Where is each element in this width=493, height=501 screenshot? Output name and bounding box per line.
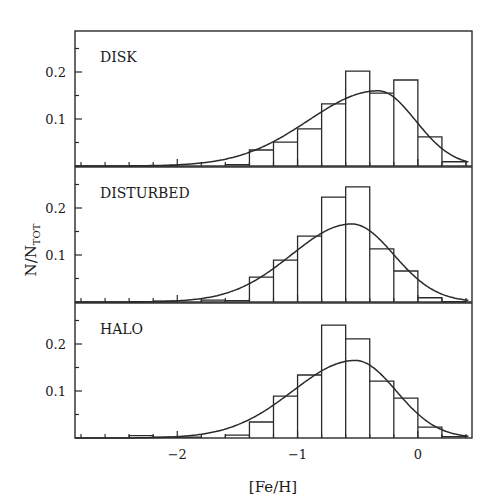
y-axis-label-main: N/N — [22, 245, 40, 276]
y-tick-label: 0.2 — [45, 65, 66, 80]
panel-label: DISTURBED — [100, 185, 190, 201]
fit-curve — [75, 224, 468, 302]
panel-label: DISK — [100, 49, 137, 65]
fit-curve — [75, 91, 468, 166]
x-tick-label: 0 — [414, 447, 422, 462]
panel-label: HALO — [100, 321, 143, 337]
x-tick-label: −1 — [288, 447, 307, 462]
y-tick-label: 0.1 — [45, 248, 66, 263]
panel-disk: 0.10.2DISK — [45, 31, 472, 166]
panel-halo: 0.10.2HALO — [45, 303, 472, 438]
y-tick-label: 0.1 — [45, 384, 66, 399]
svg-text:N/NTOT: N/NTOT — [22, 223, 42, 276]
y-axis-label: N/NTOT — [22, 223, 42, 276]
histogram-bars — [129, 71, 466, 166]
metallicity-histogram-figure: 0.10.2DISK0.10.2DISTURBED0.10.2HALO −2−1… — [0, 0, 493, 501]
y-tick-label: 0.2 — [45, 201, 66, 216]
histogram-bars — [129, 187, 466, 302]
histogram-bars — [129, 325, 466, 438]
x-axis: −2−10 — [168, 447, 422, 462]
chart-canvas: 0.10.2DISK0.10.2DISTURBED0.10.2HALO −2−1… — [0, 0, 493, 501]
x-tick-label: −2 — [168, 447, 187, 462]
fit-curve — [75, 360, 468, 438]
panel-disturbed: 0.10.2DISTURBED — [45, 167, 472, 302]
y-axis-label-subscript: TOT — [31, 223, 42, 245]
panels-group: 0.10.2DISK0.10.2DISTURBED0.10.2HALO — [45, 31, 472, 438]
x-axis-label: [Fe/H] — [249, 478, 297, 496]
y-tick-label: 0.2 — [45, 337, 66, 352]
y-tick-label: 0.1 — [45, 112, 66, 127]
